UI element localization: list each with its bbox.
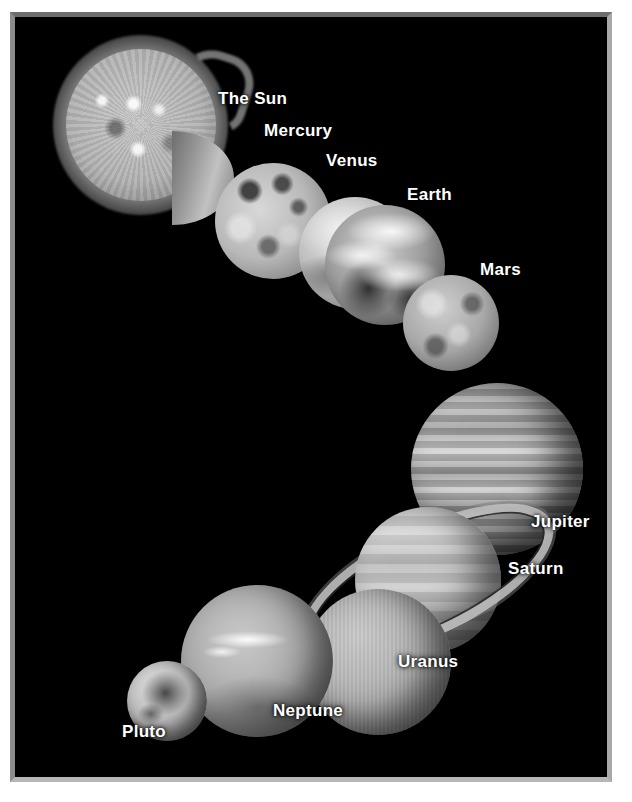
label-saturn: Saturn	[508, 560, 564, 578]
label-mars: Mars	[480, 261, 521, 279]
solar-system-poster: The Sun Mercury Venus Earth Mars Jupiter…	[10, 12, 612, 782]
label-uranus: Uranus	[398, 653, 458, 671]
space-background: The Sun Mercury Venus Earth Mars Jupiter…	[15, 17, 607, 777]
label-the-sun: The Sun	[218, 90, 287, 108]
sun-image	[53, 35, 228, 215]
mars-image	[403, 275, 499, 371]
label-mercury: Mercury	[264, 122, 332, 140]
label-venus: Venus	[326, 152, 378, 170]
label-earth: Earth	[407, 186, 452, 204]
label-neptune: Neptune	[273, 702, 343, 720]
label-jupiter: Jupiter	[531, 513, 590, 531]
label-pluto: Pluto	[122, 723, 166, 741]
